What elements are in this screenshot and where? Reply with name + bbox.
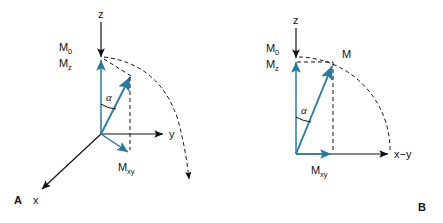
label-mz-b: M z (266, 58, 279, 73)
label-mxy-subscript-b: xy (320, 170, 328, 179)
label-mxy-main-a: M (118, 161, 127, 173)
label-m0-subscript-a: 0 (68, 47, 72, 56)
axis-label-y-a: y (169, 128, 175, 140)
axis-label-z-b: z (293, 14, 299, 26)
vector-mxy-a (101, 134, 128, 152)
label-m0-subscript-b: 0 (275, 48, 279, 57)
rotation-arc-a (104, 57, 189, 179)
panel-a: z y x M 0 M z M xy α A (14, 8, 189, 206)
rotation-arc-b (299, 57, 390, 150)
chord-m0-to-m-a (104, 59, 131, 76)
label-mxy-b: M xy (311, 164, 328, 179)
panel-letter-a: A (14, 194, 22, 206)
label-m-b: M (342, 48, 351, 60)
figure-canvas: z y x M 0 M z M xy α A (0, 0, 443, 223)
label-m0-main-b: M (266, 42, 275, 54)
label-mz-subscript-b: z (275, 64, 279, 73)
label-m0-a: M 0 (59, 41, 72, 56)
axis-label-x-a: x (33, 194, 39, 206)
vector-diagram-svg: z y x M 0 M z M xy α A (0, 0, 443, 223)
panel-letter-b: B (418, 201, 426, 213)
panel-b: z x−y M 0 M z M M xy α B (266, 14, 426, 213)
label-m0-b: M 0 (266, 42, 279, 57)
label-mz-subscript-a: z (68, 63, 72, 72)
label-mxy-main-b: M (311, 164, 320, 176)
label-angle-alpha-b: α (301, 104, 307, 116)
label-m0-main-a: M (59, 41, 68, 53)
label-mz-main-b: M (266, 58, 275, 70)
axis-x-line-a (42, 134, 101, 189)
vector-m-a (101, 77, 130, 134)
label-mz-a: M z (59, 57, 72, 72)
label-angle-alpha-a: α (106, 91, 112, 103)
angle-arc-b (296, 117, 311, 122)
label-mxy-subscript-a: xy (127, 167, 135, 176)
label-mxy-a: M xy (118, 161, 135, 176)
axis-label-xy-b: x−y (394, 148, 412, 160)
label-mz-main-a: M (59, 57, 68, 69)
axis-label-z-a: z (98, 8, 104, 20)
